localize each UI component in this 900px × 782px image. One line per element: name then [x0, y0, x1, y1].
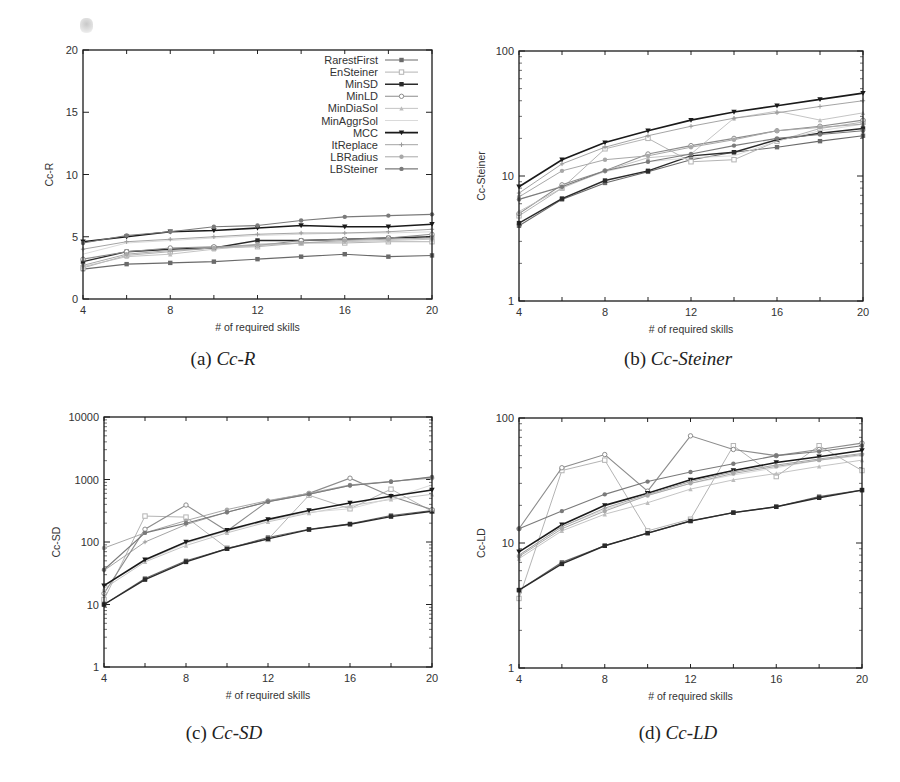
series-markers	[516, 448, 864, 554]
series-line-rarestfirst	[519, 490, 862, 590]
series-line-mindiasol	[519, 460, 862, 558]
caption-d-prefix: (d)	[639, 722, 666, 743]
y-tick-label: 100	[496, 412, 514, 424]
y-axis-label: Cc-LD	[475, 528, 487, 558]
chart-cc-ld: 11010048121620# of required skillsCc-LD	[0, 0, 900, 720]
caption-b: (b) Cc-Steiner	[624, 348, 732, 370]
y-tick-label: 10	[502, 537, 514, 549]
series-markers	[517, 452, 864, 558]
x-axis-label: # of required skills	[648, 690, 733, 702]
caption-c-prefix: (c)	[186, 722, 212, 743]
caption-a-name: Cc-R	[216, 348, 255, 369]
axes: 11010048121620# of required skillsCc-LD	[475, 412, 868, 702]
caption-d-name: Cc-LD	[666, 722, 718, 743]
caption-a: (a) Cc-R	[191, 348, 256, 370]
caption-c-name: Cc-SD	[212, 722, 263, 743]
y-tick-label: 1	[508, 662, 514, 674]
caption-d: (d) Cc-LD	[639, 722, 718, 744]
series-markers	[517, 488, 864, 592]
x-tick-label: 12	[684, 673, 696, 685]
series-markers	[517, 488, 864, 592]
caption-c: (c) Cc-SD	[186, 722, 263, 744]
x-tick-label: 16	[770, 673, 782, 685]
plot-frame	[519, 418, 862, 668]
caption-b-prefix: (b)	[624, 348, 651, 369]
caption-a-prefix: (a)	[191, 348, 217, 369]
x-tick-label: 20	[856, 673, 868, 685]
x-tick-label: 4	[516, 673, 522, 685]
x-tick-label: 8	[602, 673, 608, 685]
series-line-minsd	[519, 490, 862, 590]
series-group	[516, 434, 864, 601]
caption-b-name: Cc-Steiner	[651, 348, 732, 369]
